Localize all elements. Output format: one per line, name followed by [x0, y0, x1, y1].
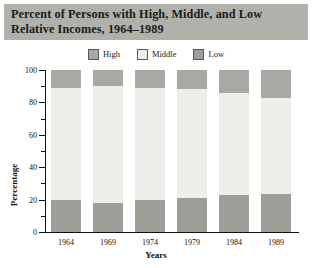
- legend-label-middle: Middle: [152, 49, 177, 59]
- y-tick-label-60: 60: [29, 130, 37, 139]
- bar-group-1989[interactable]: [261, 70, 291, 232]
- legend-swatch-high-icon: [88, 49, 99, 60]
- bar-segment-low-1969[interactable]: [93, 203, 123, 232]
- x-tick-label-1979: 1979: [172, 238, 212, 247]
- bar-group-1974[interactable]: [135, 70, 165, 232]
- bar-segment-low-1989[interactable]: [261, 194, 291, 232]
- bar-group-1984[interactable]: [219, 70, 249, 232]
- legend-swatch-middle-icon: [137, 49, 148, 60]
- y-tick-label-0: 0: [33, 228, 37, 237]
- legend-item-high: High: [88, 49, 120, 60]
- y-tick-label-40: 40: [29, 163, 37, 172]
- bar-segment-low-1984[interactable]: [219, 195, 249, 232]
- bar-group-1964[interactable]: [51, 70, 81, 232]
- y-tick-label-100: 100: [25, 66, 37, 75]
- bar-segment-high-1989[interactable]: [261, 70, 291, 98]
- bar-segment-low-1974[interactable]: [135, 200, 165, 232]
- chart-plot-wrapper: Percentage 020406080100 Years 1964196919…: [0, 62, 312, 268]
- y-tick-mark-icon: [39, 70, 45, 71]
- y-tick-mark-icon: [41, 216, 45, 217]
- bar-segment-low-1979[interactable]: [177, 198, 207, 232]
- y-tick-mark-icon: [39, 200, 45, 201]
- bar-segment-middle-1984[interactable]: [219, 93, 249, 195]
- x-tick-label-1984: 1984: [214, 238, 254, 247]
- bar-segment-middle-1979[interactable]: [177, 89, 207, 198]
- chart-title-line-2: Relative Incomes, 1964–1989: [11, 22, 301, 37]
- bar-segment-high-1969[interactable]: [93, 70, 123, 86]
- y-tick-mark-icon: [39, 232, 45, 233]
- y-tick-label-20: 20: [29, 195, 37, 204]
- bar-segment-high-1979[interactable]: [177, 70, 207, 89]
- legend-label-high: High: [103, 49, 120, 59]
- bar-segment-low-1964[interactable]: [51, 200, 81, 232]
- x-tick-label-1974: 1974: [130, 238, 170, 247]
- bar-segment-high-1964[interactable]: [51, 70, 81, 88]
- legend-swatch-low-icon: [193, 49, 204, 60]
- bar-segment-high-1984[interactable]: [219, 70, 249, 93]
- chart-legend: High Middle Low: [0, 46, 312, 62]
- x-tick-label-1964: 1964: [46, 238, 86, 247]
- bar-segment-middle-1969[interactable]: [93, 86, 123, 203]
- y-tick-mark-icon: [39, 135, 45, 136]
- bar-segment-high-1974[interactable]: [135, 70, 165, 88]
- plot-area: 020406080100: [45, 70, 297, 232]
- legend-item-middle: Middle: [137, 49, 177, 60]
- y-tick-mark-icon: [41, 151, 45, 152]
- bar-group-1979[interactable]: [177, 70, 207, 232]
- y-tick-mark-icon: [41, 86, 45, 87]
- legend-label-low: Low: [208, 49, 224, 59]
- y-tick-label-80: 80: [29, 98, 37, 107]
- chart-title-banner: Percent of Persons with High, Middle, an…: [4, 4, 308, 40]
- y-axis-title: Percentage: [9, 145, 19, 225]
- y-tick-mark-icon: [41, 119, 45, 120]
- y-tick-mark-icon: [39, 102, 45, 103]
- x-tick-label-1989: 1989: [256, 238, 296, 247]
- bar-segment-middle-1989[interactable]: [261, 98, 291, 194]
- x-axis-title: Years: [0, 250, 312, 260]
- bar-segment-middle-1974[interactable]: [135, 88, 165, 200]
- y-tick-mark-icon: [39, 167, 45, 168]
- bar-group-1969[interactable]: [93, 70, 123, 232]
- x-tick-label-1969: 1969: [88, 238, 128, 247]
- legend-item-low: Low: [193, 49, 224, 60]
- bar-segment-middle-1964[interactable]: [51, 88, 81, 200]
- y-tick-mark-icon: [41, 183, 45, 184]
- chart-title-line-1: Percent of Persons with High, Middle, an…: [11, 7, 301, 22]
- x-axis-line: [41, 232, 299, 233]
